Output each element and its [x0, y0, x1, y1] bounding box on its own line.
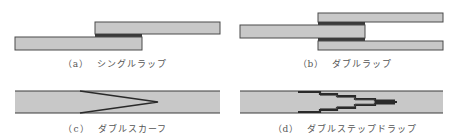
double-scarf-joint: [15, 91, 220, 113]
single-lap-joint: [15, 22, 220, 50]
caption-text: ダブルスカーフ: [98, 124, 167, 134]
double-lap-joint: [240, 13, 443, 50]
caption-text: シングルラップ: [97, 59, 167, 69]
caption-text: ダブルラップ: [332, 59, 392, 69]
caption-double-scarf: （c）ダブルスカーフ: [63, 122, 166, 135]
caption-number: （d）: [273, 124, 300, 134]
caption-number: （b）: [298, 59, 325, 69]
scarf-plate: [15, 91, 220, 113]
upper-plate: [95, 22, 220, 34]
caption-double-stepped-lap: （d）ダブルステップドラップ: [273, 122, 418, 135]
step-plate: [240, 91, 443, 113]
caption-text: ダブルステップドラップ: [307, 124, 417, 134]
double-stepped-lap-joint: [240, 91, 443, 113]
top-plate: [318, 13, 443, 22]
bottom-plate: [318, 41, 443, 50]
middle-plate: [240, 25, 365, 38]
caption-single-lap: （a）シングルラップ: [63, 57, 167, 70]
joint-diagrams: [0, 0, 460, 140]
lower-plate: [15, 37, 142, 50]
caption-number: （c）: [63, 124, 89, 134]
caption-double-lap: （b）ダブルラップ: [298, 57, 393, 70]
caption-number: （a）: [63, 59, 89, 69]
